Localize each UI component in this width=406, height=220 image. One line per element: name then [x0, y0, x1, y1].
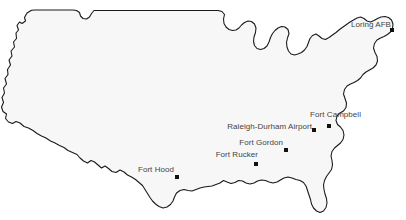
site-label-fort-hood: Fort Hood	[138, 165, 174, 174]
site-dot-fort-campbell[interactable]	[327, 124, 331, 128]
site-label-fort-campbell: Fort Campbell	[310, 110, 361, 119]
us-military-installations-map: Loring AFB Fort Campbell Raleigh-Durham …	[0, 0, 406, 220]
site-dot-fort-rucker[interactable]	[254, 162, 258, 166]
site-dot-raleigh-durham-airport[interactable]	[312, 128, 316, 132]
site-label-fort-rucker: Fort Rucker	[216, 150, 258, 159]
site-label-fort-gordon: Fort Gordon	[239, 138, 283, 147]
site-label-loring-afb: Loring AFB	[351, 20, 391, 29]
site-dot-loring-afb[interactable]	[390, 28, 394, 32]
site-dot-fort-hood[interactable]	[175, 175, 179, 179]
site-marker-layer: Loring AFB Fort Campbell Raleigh-Durham …	[0, 0, 406, 220]
site-dot-fort-gordon[interactable]	[284, 148, 288, 152]
site-label-raleigh-durham-airport: Raleigh-Durham Airport	[227, 122, 312, 131]
